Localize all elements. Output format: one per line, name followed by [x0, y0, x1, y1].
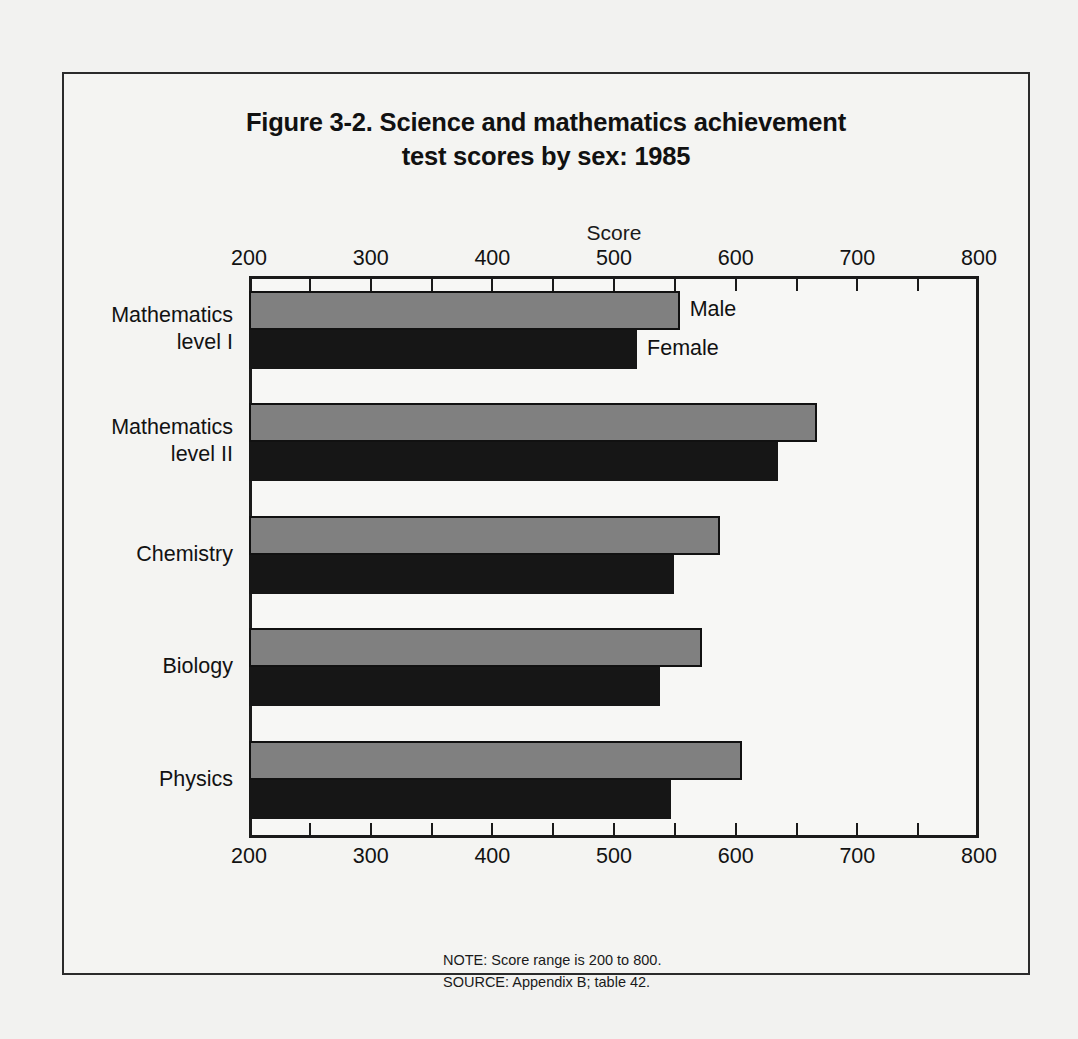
bar-male — [249, 403, 817, 442]
category-label-line: Physics — [0, 766, 233, 793]
chart-title-line-2: test scores by sex: 1985 — [64, 140, 1028, 174]
axis-tick — [491, 823, 493, 838]
series-label-male: Male — [690, 297, 737, 322]
x-tick-label: 300 — [353, 844, 389, 869]
axis-tick — [856, 823, 858, 838]
source-line: SOURCE: Appendix B; table 42. — [443, 972, 661, 994]
footnotes: NOTE: Score range is 200 to 800. SOURCE:… — [443, 950, 661, 994]
plot-area: MaleFemale — [249, 276, 979, 838]
category-label-line: Mathematics — [0, 414, 233, 441]
bar-female — [249, 667, 660, 706]
x-tick-label: 400 — [474, 246, 510, 271]
category-label: Biology — [0, 653, 233, 680]
axis-tick — [674, 276, 676, 291]
chart-title: Figure 3-2. Science and mathematics achi… — [64, 106, 1028, 174]
axis-tick — [735, 823, 737, 838]
axis-tick — [491, 276, 493, 291]
x-tick-label: 300 — [353, 246, 389, 271]
category-label-line: level I — [0, 329, 233, 356]
axis-tick — [917, 823, 919, 838]
axis-tick — [309, 276, 311, 291]
axis-tick — [431, 823, 433, 838]
x-tick-label: 200 — [231, 844, 267, 869]
axis-tick — [613, 276, 615, 291]
axis-tick — [796, 823, 798, 838]
bar-female — [249, 330, 637, 369]
x-tick-label: 200 — [231, 246, 267, 271]
bar-female — [249, 555, 674, 594]
category-label: Physics — [0, 766, 233, 793]
category-label: Chemistry — [0, 541, 233, 568]
x-tick-label: 600 — [718, 844, 754, 869]
axis-tick — [796, 276, 798, 291]
bar-female — [249, 780, 671, 819]
x-tick-label: 400 — [474, 844, 510, 869]
bar-male — [249, 516, 720, 555]
axis-tick — [613, 823, 615, 838]
axis-tick — [431, 276, 433, 291]
x-tick-label: 500 — [596, 844, 632, 869]
figure-page: Figure 3-2. Science and mathematics achi… — [0, 0, 1078, 1039]
x-tick-label: 700 — [839, 246, 875, 271]
category-label-line: Chemistry — [0, 541, 233, 568]
category-label-line: Mathematics — [0, 302, 233, 329]
figure-border: Figure 3-2. Science and mathematics achi… — [62, 72, 1030, 975]
axis-tick — [552, 276, 554, 291]
x-tick-label: 800 — [961, 844, 997, 869]
note-line: NOTE: Score range is 200 to 800. — [443, 950, 661, 972]
bar-female — [249, 442, 778, 481]
category-label: Mathematicslevel II — [0, 414, 233, 468]
axis-tick — [735, 276, 737, 291]
axis-tick — [370, 823, 372, 838]
x-tick-label: 500 — [596, 246, 632, 271]
bar-male — [249, 628, 702, 667]
axis-tick — [309, 823, 311, 838]
bar-male — [249, 291, 680, 330]
axis-tick — [856, 276, 858, 291]
axis-tick — [370, 276, 372, 291]
axis-tick — [674, 823, 676, 838]
category-label-line: Biology — [0, 653, 233, 680]
x-tick-label: 700 — [839, 844, 875, 869]
axis-tick — [917, 276, 919, 291]
series-label-female: Female — [647, 336, 719, 361]
category-label-line: level II — [0, 441, 233, 468]
x-axis-title: Score — [249, 221, 979, 245]
chart-title-line-1: Figure 3-2. Science and mathematics achi… — [246, 108, 846, 136]
category-label: Mathematicslevel I — [0, 302, 233, 356]
bar-male — [249, 741, 742, 780]
axis-tick — [552, 823, 554, 838]
x-tick-label: 800 — [961, 246, 997, 271]
x-tick-label: 600 — [718, 246, 754, 271]
